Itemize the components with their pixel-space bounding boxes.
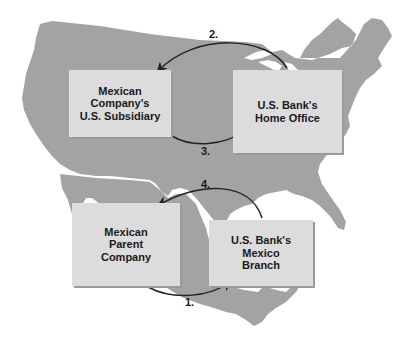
node-us-subsidiary: Mexican Company's U.S. Subsidiary [69, 70, 171, 137]
node-label-line: U.S. Bank's [255, 99, 320, 112]
step-label-2: 2. [209, 28, 218, 40]
node-label-line: Branch [231, 259, 291, 272]
node-label-line: U.S. Bank's [231, 234, 291, 247]
step-label-1: 1. [185, 296, 194, 308]
node-label-line: Mexican [101, 226, 151, 239]
node-us-home-office: U.S. Bank's Home Office [233, 70, 342, 153]
us-mexico-map [0, 0, 417, 339]
node-label-line: Company [101, 251, 151, 264]
node-label-line: Mexican Company's [69, 85, 171, 110]
node-label-line: Home Office [255, 112, 320, 125]
node-mexico-branch: U.S. Bank's Mexico Branch [209, 220, 313, 286]
step-label-4: 4. [201, 178, 210, 190]
node-label-line: Mexico [231, 247, 291, 260]
node-mexican-parent: Mexican Parent Company [72, 203, 180, 286]
node-label-line: Parent [101, 238, 151, 251]
node-label-line: U.S. Subsidiary [69, 110, 171, 123]
step-label-3: 3. [201, 145, 210, 157]
